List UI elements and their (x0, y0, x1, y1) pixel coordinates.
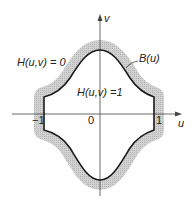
origin-label: 0 (88, 114, 94, 126)
tick-pos1-label: 1 (156, 114, 162, 126)
filter-region-diagram: v u 0 −1 1 H(u,v) = 0 H(u,v) =1 B(u) (0, 0, 194, 206)
tick-neg1-label: −1 (32, 114, 45, 126)
inside-region-label: H(u,v) =1 (77, 86, 123, 98)
boundary-label: B(u) (139, 52, 160, 64)
v-axis-arrow-icon (98, 14, 103, 21)
v-axis-label: v (104, 12, 111, 24)
u-axis-label: u (178, 117, 184, 129)
outside-region-label: H(u,v) = 0 (17, 56, 66, 68)
u-axis-arrow-icon (175, 112, 182, 117)
